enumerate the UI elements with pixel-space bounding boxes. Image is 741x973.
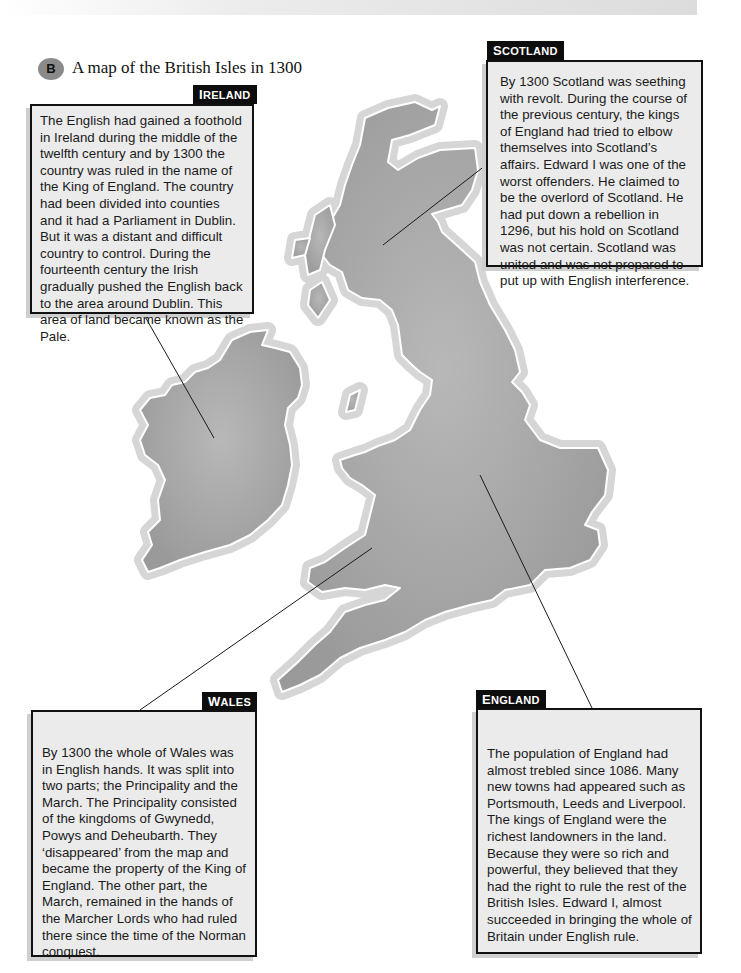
scotland-label: SCOTLAND — [487, 41, 564, 60]
wales-text: By 1300 the whole of Wales was in Englis… — [42, 745, 247, 961]
wales-label: WALES — [202, 692, 257, 711]
england-text: The population of England had almost tre… — [487, 746, 692, 945]
scotland-info-box: By 1300 Scotland was seething with revol… — [486, 60, 703, 267]
scotland-text: By 1300 Scotland was seething with revol… — [500, 74, 691, 290]
wales-info-box: By 1300 the whole of Wales was in Englis… — [31, 710, 257, 957]
ireland-text: The English had gained a foothold in Ire… — [40, 113, 244, 345]
england-info-box: The population of England had almost tre… — [476, 708, 702, 954]
ireland-landmass — [140, 330, 302, 572]
ireland-info-box: The English had gained a foothold in Ire… — [30, 104, 254, 314]
ireland-label: IRELAND — [193, 85, 257, 104]
england-label: ENGLAND — [476, 690, 546, 709]
